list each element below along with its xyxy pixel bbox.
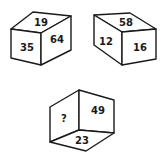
cube-1-top-number: 19 — [34, 17, 48, 28]
cube-2-top-number: 58 — [119, 17, 133, 28]
cube-puzzle: 19 35 64 58 12 16 ? 49 23 — [0, 0, 164, 153]
cube-1-front-number: 35 — [20, 42, 34, 53]
cube-3-bottom-number: 23 — [75, 135, 89, 146]
cube-2: 58 12 16 — [94, 13, 156, 65]
cube-3-unknown-number: ? — [61, 113, 67, 124]
cube-3: ? 49 23 — [50, 90, 114, 151]
cube-1: 19 35 64 — [11, 12, 71, 65]
cube-3-right-number: 49 — [91, 105, 105, 116]
cube-2-left-number: 12 — [99, 36, 113, 47]
cube-2-front-number: 16 — [133, 42, 147, 53]
cube-1-right-number: 64 — [50, 34, 64, 45]
